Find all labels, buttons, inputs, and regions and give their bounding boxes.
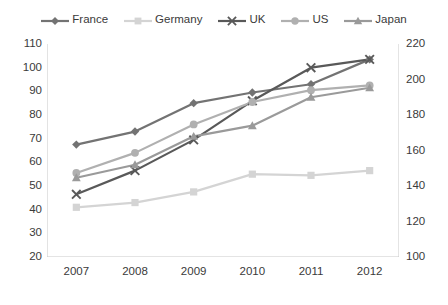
y-axis-left-tick-80: 80 [16, 109, 42, 120]
chart-legend: FranceGermanyUKUSJapan [0, 8, 448, 30]
y-axis-left-tick-20: 20 [16, 251, 42, 262]
x-axis-tick-2011: 2011 [286, 266, 336, 277]
triangle-marker-icon [344, 13, 372, 25]
circle-marker-icon [292, 17, 299, 24]
data-point-france-2008 [131, 127, 139, 135]
series-line-japan [76, 88, 369, 178]
y-axis-right: 100120140160180200220 [406, 0, 442, 305]
data-point-germany-2010 [249, 171, 256, 178]
y-axis-left-tick-60: 60 [16, 156, 42, 167]
data-point-us-2009 [190, 121, 198, 129]
y-axis-left-tick-110: 110 [16, 38, 42, 49]
y-axis-left-tick-50: 50 [16, 180, 42, 191]
data-point-us-2008 [131, 149, 139, 157]
x-axis-tick-2010: 2010 [227, 266, 277, 277]
x-axis: 200720082009201020112012 [0, 266, 448, 286]
legend-label-france: France [72, 13, 108, 25]
line-chart: FranceGermanyUKUSJapan 20304050607080901… [0, 0, 448, 305]
diamond-marker-icon [51, 17, 59, 25]
y-axis-left-tick-100: 100 [16, 62, 42, 73]
diamond-marker-icon [41, 13, 69, 25]
x-axis-tick-2008: 2008 [110, 266, 160, 277]
series-canvas [47, 44, 399, 257]
data-point-us-2010 [248, 98, 256, 106]
legend-item-uk[interactable]: UK [218, 13, 265, 25]
y-axis-left-tick-30: 30 [16, 227, 42, 238]
data-point-germany-2009 [190, 188, 197, 195]
y-axis-right-tick-160: 160 [406, 145, 436, 156]
y-axis-right-tick-180: 180 [406, 109, 436, 120]
x-axis-tick-2007: 2007 [51, 266, 101, 277]
legend-label-us: US [312, 13, 328, 25]
data-point-germany-2007 [73, 204, 80, 211]
cross-marker-icon [218, 13, 246, 25]
x-axis-tick-2012: 2012 [345, 266, 395, 277]
data-point-uk-2007 [72, 190, 81, 199]
y-axis-right-tick-140: 140 [406, 180, 436, 191]
y-axis-right-tick-200: 200 [406, 74, 436, 85]
legend-label-uk: UK [249, 13, 265, 25]
y-axis-left: 2030405060708090100110 [12, 0, 42, 305]
legend-item-germany[interactable]: Germany [124, 13, 202, 25]
legend-label-germany: Germany [155, 13, 202, 25]
data-point-france-2007 [72, 140, 80, 148]
data-point-france-2009 [189, 99, 197, 107]
y-axis-right-tick-120: 120 [406, 216, 436, 227]
legend-item-france[interactable]: France [41, 13, 108, 25]
y-axis-left-tick-90: 90 [16, 85, 42, 96]
y-axis-right-tick-220: 220 [406, 38, 436, 49]
y-axis-left-tick-70: 70 [16, 133, 42, 144]
plot-area [47, 44, 399, 257]
square-marker-icon [135, 18, 142, 25]
data-point-germany-2012 [366, 167, 373, 174]
circle-marker-icon [281, 13, 309, 25]
data-point-france-2010 [248, 88, 256, 96]
legend-item-japan[interactable]: Japan [344, 13, 406, 25]
data-point-germany-2008 [131, 199, 138, 206]
y-axis-right-tick-100: 100 [406, 251, 436, 262]
data-point-germany-2011 [307, 172, 314, 179]
y-axis-left-tick-40: 40 [16, 204, 42, 215]
square-marker-icon [124, 13, 152, 25]
x-axis-tick-2009: 2009 [169, 266, 219, 277]
legend-label-japan: Japan [375, 13, 406, 25]
legend-item-us[interactable]: US [281, 13, 328, 25]
